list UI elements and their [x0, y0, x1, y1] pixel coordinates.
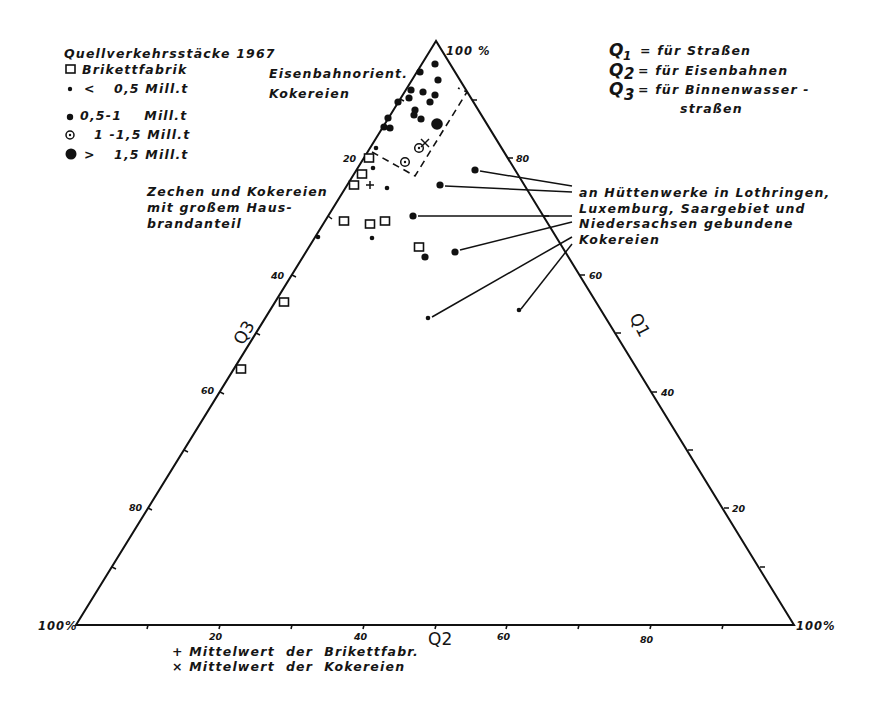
apex-label: 100 % — [446, 44, 491, 58]
data-point-square — [381, 217, 390, 225]
data-point-small — [316, 235, 321, 240]
q2-tick-80: 80 — [640, 634, 654, 645]
key-q3-text: = für Binnenwasser - — [638, 82, 810, 97]
ternary-chart: 20 40 60 80 80 60 40 20 20 40 60 80 100 … — [0, 0, 870, 706]
key-q3-sub: 3 — [624, 86, 634, 104]
data-point-medium — [436, 181, 443, 188]
data-point-square — [365, 154, 374, 162]
data-point-circle-dot-center — [404, 161, 406, 163]
q3-tick-20: 20 — [343, 153, 357, 164]
annot-huetten-4: Kokereien — [579, 232, 660, 247]
right-vertex-label: 100% — [796, 619, 836, 633]
axis-key: Q 1 = für Straßen Q 2 = für Eisenbahnen … — [609, 40, 810, 116]
legend-item-lt05: 0,5 Mill.t — [114, 81, 189, 96]
key-q2-text: = für Eisenbahnen — [638, 63, 788, 78]
points-large — [431, 118, 443, 130]
data-point-medium — [417, 115, 424, 122]
data-point-medium — [434, 76, 441, 83]
q1-axis-label: Q1 — [625, 309, 654, 340]
data-point-square — [340, 217, 349, 225]
footer-cross-legend: × Mittelwert der Kokereien — [172, 659, 405, 674]
data-point-medium — [394, 98, 401, 105]
data-point-medium — [386, 124, 393, 131]
data-point-medium — [409, 212, 416, 219]
data-point-circle-dot-center — [418, 147, 420, 149]
legend-item-05-1: 0,5-1 Mill.t — [80, 108, 187, 123]
annot-zechen-2: mit großem Haus- — [147, 200, 293, 215]
data-point-small — [385, 186, 390, 191]
railway-cokeries-box — [372, 88, 467, 176]
points-medium — [380, 60, 478, 260]
data-point-small — [371, 166, 376, 171]
data-point-medium — [410, 111, 417, 118]
data-point-medium — [380, 123, 387, 130]
annot-zechen-1: Zechen und Kokereien — [146, 184, 328, 199]
data-point-medium — [416, 68, 423, 75]
legend-item-gt15: 1,5 Mill.t — [114, 147, 189, 162]
data-point-square — [358, 170, 367, 178]
annot-zechen-3: brandanteil — [147, 216, 242, 231]
q1-tick-20: 20 — [732, 503, 746, 514]
q1-tick-80: 80 — [516, 153, 530, 164]
legend-title: Quellverkehrsstäcke 1967 — [64, 46, 276, 61]
points-plus — [366, 181, 374, 189]
data-point-medium — [471, 166, 478, 173]
key-q3-sym: Q — [609, 79, 623, 99]
data-point-medium — [419, 88, 426, 95]
key-q2-sym: Q — [609, 60, 623, 80]
data-point-medium — [431, 91, 438, 98]
data-point-square — [280, 298, 289, 306]
data-point-small — [370, 236, 375, 241]
data-point-square — [366, 220, 375, 228]
circle-dot-center — [69, 134, 71, 136]
q2-axis-label: Q2 — [428, 629, 452, 649]
legend-item-brikett: Brikettfabrik — [82, 62, 187, 77]
key-q1-sub: 1 — [623, 49, 631, 63]
data-point-large — [431, 118, 443, 130]
points-small — [316, 146, 522, 321]
q1-tick-40: 40 — [660, 387, 675, 398]
annot-eisenbahn-1: Eisenbahnorient. — [269, 66, 408, 81]
q3-tick-60: 60 — [201, 385, 215, 396]
legend-item-1-15: 1 -1,5 Mill.t — [94, 127, 190, 142]
data-point-medium — [421, 253, 428, 260]
data-point-medium — [451, 248, 458, 255]
points-cross — [421, 139, 429, 147]
points-circle-dot — [401, 144, 424, 167]
q3-tick-80: 80 — [129, 502, 143, 513]
q2-tick-60: 60 — [497, 631, 511, 642]
data-point-medium — [431, 60, 438, 67]
annot-huetten-2: Luxemburg, Saargebiet und — [579, 201, 806, 216]
q1-tick-60: 60 — [589, 270, 603, 281]
data-point-square — [237, 365, 246, 373]
footer-plus-legend: + Mittelwert der Brikettfabr. — [172, 644, 419, 659]
data-point-medium — [426, 98, 433, 105]
square-icon — [66, 65, 75, 73]
data-point-square — [415, 243, 424, 251]
data-point-small — [517, 308, 522, 313]
legend: Quellverkehrsstäcke 1967 Brikettfabrik <… — [64, 46, 276, 162]
key-q3-text2: straßen — [680, 101, 743, 116]
data-point-small — [374, 146, 379, 151]
medium-dot-icon — [67, 114, 73, 120]
q3-axis-label: Q3 — [229, 317, 258, 348]
large-dot-icon — [66, 149, 77, 160]
q3-tick-40: 40 — [270, 270, 285, 281]
leader-lines — [418, 171, 572, 317]
q2-tick-20: 20 — [209, 631, 223, 642]
annot-huetten-1: an Hüttenwerke in Lothringen, — [579, 185, 830, 200]
data-point-medium — [384, 114, 391, 121]
legend-item-gt15-prefix: > — [84, 147, 96, 162]
annot-huetten-3: Niedersachsen gebundene — [579, 216, 794, 231]
data-point-square — [350, 181, 359, 189]
data-point-medium — [407, 86, 414, 93]
key-q2-sub: 2 — [624, 65, 634, 83]
annot-eisenbahn-2: Kokereien — [269, 86, 350, 101]
small-dot-icon — [68, 87, 72, 91]
q2-tick-40: 40 — [353, 631, 368, 642]
legend-item-lt05-prefix: < — [84, 81, 96, 96]
data-point-medium — [405, 94, 412, 101]
data-point-small — [426, 316, 431, 321]
left-vertex-label: 100% — [38, 619, 78, 633]
key-q1-sym: Q — [609, 40, 623, 60]
